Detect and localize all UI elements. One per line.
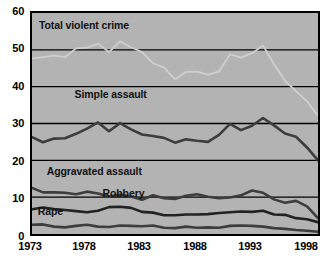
plot-area	[30, 11, 320, 236]
y-tick-20: 20	[0, 155, 24, 167]
x-tick-1988: 1988	[175, 240, 215, 252]
series-line-total-violent-crime	[32, 41, 318, 115]
series-line-rape	[32, 224, 318, 231]
series-label-simple-assault: Simple assault	[75, 88, 147, 100]
series-line-robbery	[32, 207, 318, 222]
y-tick-50: 50	[0, 42, 24, 54]
x-tick-1983: 1983	[119, 240, 159, 252]
series-lines	[32, 41, 318, 231]
series-label-rape: Rape	[38, 205, 63, 217]
x-tick-1998: 1998	[286, 240, 326, 252]
x-tick-1978: 1978	[64, 240, 104, 252]
series-label-total-violent-crime: Total violent crime	[39, 19, 129, 31]
series-line-simple-assault	[32, 118, 318, 160]
x-axis-tick-labels: 1973 1978 1983 1988 1993 1998	[0, 240, 331, 260]
x-tick-1993: 1993	[230, 240, 270, 252]
y-tick-60: 60	[0, 5, 24, 17]
y-tick-30: 30	[0, 117, 24, 129]
series-label-robbery: Robbery	[103, 187, 145, 199]
chart-container: 60 50 40 30 20 10 0 Total violent crimeS…	[0, 0, 331, 266]
x-tick-1973: 1973	[10, 240, 50, 252]
y-tick-40: 40	[0, 80, 24, 92]
series-label-aggravated-assault: Aggravated assault	[47, 165, 142, 177]
plot-svg	[32, 13, 318, 234]
y-axis-tick-labels: 60 50 40 30 20 10 0	[0, 0, 26, 266]
y-tick-10: 10	[0, 192, 24, 204]
